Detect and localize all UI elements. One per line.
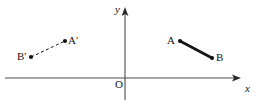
- origin-label: O: [115, 79, 123, 90]
- point-b-dot: [210, 56, 214, 60]
- point-a-prime-dot: [63, 39, 67, 43]
- point-label-a-prime: A': [68, 35, 78, 46]
- x-axis-label: x: [245, 83, 250, 94]
- point-a-dot: [178, 39, 182, 43]
- point-label-b: B: [216, 52, 223, 63]
- coordinate-plane-drawing: [0, 0, 263, 103]
- point-label-a: A: [167, 35, 175, 46]
- segment-a-prime-b-prime-line: [31, 41, 65, 57]
- point-label-b-prime: B': [17, 51, 26, 62]
- geometry-figure: y x O B' A' A B: [0, 0, 263, 103]
- point-b-prime-dot: [29, 55, 33, 59]
- y-axis-label: y: [115, 4, 120, 15]
- segment-a-b-line: [180, 41, 212, 58]
